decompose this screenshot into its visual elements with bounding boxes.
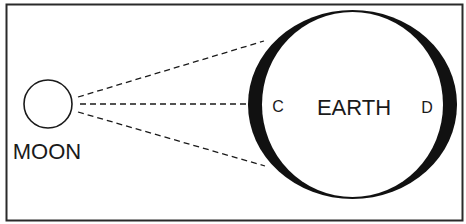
moon-earth-diagram: MOON EARTH C D [0, 0, 466, 224]
diagram-frame: MOON EARTH C D [0, 0, 466, 224]
point-d-label: D [421, 99, 433, 116]
moon-label: MOON [13, 139, 81, 164]
earth-label: EARTH [317, 95, 391, 120]
point-c-label: C [272, 98, 284, 115]
